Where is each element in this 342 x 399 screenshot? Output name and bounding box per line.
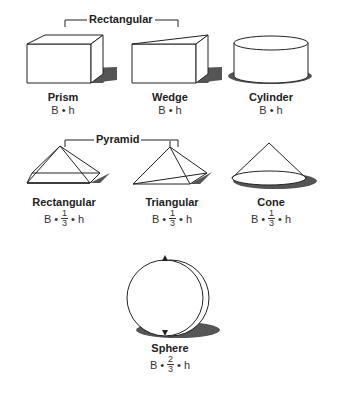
cone-formula: B • 13 • h xyxy=(236,209,306,228)
fraction: 23 xyxy=(167,355,174,374)
group-label-pyramid: Pyramid xyxy=(94,133,141,145)
sphere-shape xyxy=(127,255,220,338)
prism-formula: B • h xyxy=(28,104,98,116)
rectangular-pyramid-formula: B • 13 • h xyxy=(24,209,104,228)
triangular-pyramid-label: Triangular xyxy=(132,196,212,208)
cylinder-label: Cylinder xyxy=(236,91,306,103)
fraction: 13 xyxy=(268,209,275,228)
triangular-pyramid-formula: B • 13 • h xyxy=(132,209,212,228)
triangular-pyramid-shape xyxy=(133,141,212,184)
group-label-rectangular: Rectangular xyxy=(87,13,155,25)
fraction: 13 xyxy=(61,209,68,228)
cone-label: Cone xyxy=(236,196,306,208)
sphere-formula: B • 23 • h xyxy=(130,355,210,374)
fraction: 13 xyxy=(169,209,176,228)
cylinder-formula: B • h xyxy=(236,104,306,116)
rectangular-pyramid-label: Rectangular xyxy=(24,196,104,208)
wedge-formula: B • h xyxy=(135,104,205,116)
wedge-shape xyxy=(132,35,222,83)
prism-label: Prism xyxy=(28,91,98,103)
sphere-label: Sphere xyxy=(130,342,210,354)
wedge-label: Wedge xyxy=(135,91,205,103)
rectangular-pyramid-shape xyxy=(27,146,110,183)
prism-shape xyxy=(27,35,117,83)
cone-shape xyxy=(232,143,317,189)
top-arrow-icon xyxy=(162,255,168,261)
cylinder-shape xyxy=(228,36,312,84)
